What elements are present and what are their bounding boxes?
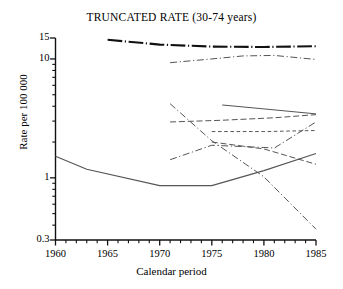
series-lines [56, 40, 317, 229]
x-tick-label: 1960 [36, 248, 76, 259]
series-line [212, 142, 316, 164]
series-line [170, 55, 316, 62]
axes [50, 38, 316, 246]
y-tick-label: 0.3 [4, 233, 50, 244]
chart-container: TRUNCATED RATE (30-74 years) Rate per 10… [0, 0, 343, 289]
series-line [56, 154, 317, 186]
series-line [108, 40, 316, 47]
plot-area [0, 0, 343, 289]
x-tick-label: 1970 [140, 248, 180, 259]
x-tick-label: 1985 [296, 248, 336, 259]
series-line [170, 104, 316, 229]
y-tick-label: 1 [4, 171, 50, 182]
series-line [222, 105, 316, 114]
x-tick-label: 1965 [88, 248, 128, 259]
y-tick-label: 10 [4, 52, 50, 63]
series-line [170, 115, 316, 122]
x-tick-label: 1980 [244, 248, 284, 259]
x-tick-label: 1975 [192, 248, 232, 259]
series-line [170, 122, 316, 160]
y-tick-label: 15 [4, 31, 50, 42]
